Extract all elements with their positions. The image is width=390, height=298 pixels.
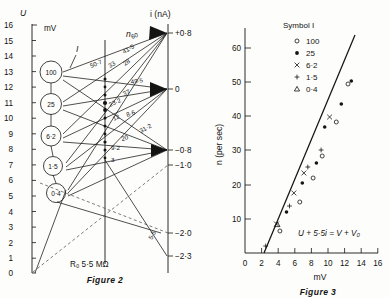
figure3-y-ticks: 60 50 40 30 20 10 <box>232 44 251 224</box>
figure2-caption: Figure 2 <box>87 275 124 285</box>
figure3-point-filled-circle <box>323 125 327 129</box>
figure2-y-tick-label: 6 <box>8 176 13 185</box>
figure3-caption: Figure 3 <box>300 287 337 297</box>
figure3-point-open-circle <box>334 120 338 124</box>
figure3-x-axis-label: mV <box>314 272 327 282</box>
figure3-y-axis-label: n (per sec) <box>214 124 224 165</box>
figure3-x-tick-label: 4 <box>276 259 281 268</box>
figure3-x-tick-label: 2 <box>259 259 264 268</box>
figure3-legend-entry: 6·2 <box>306 61 318 70</box>
figure3-y-tick-label: 10 <box>232 215 242 224</box>
figure3-point-cross <box>292 191 297 196</box>
figure2-y-tick-label: 12 <box>4 83 14 92</box>
figure3-point-plus <box>305 165 310 170</box>
figure-plate-svg: U mV 16 15 14 13 12 11 10 9 8 7 <box>0 0 390 298</box>
figure2-line-label: 37 <box>122 87 132 96</box>
figure3-legend-entry: 1·5 <box>306 73 318 82</box>
figure2-y-tick-label: 3 <box>8 223 13 232</box>
figure2-right-tick-label: −2·3 <box>175 252 192 261</box>
figure2-load-lines <box>35 160 167 273</box>
figure2-y-tick-label: 9 <box>8 130 13 139</box>
figure2-y-tick-label: 14 <box>4 52 14 61</box>
figure2-y-tick-label: 1 <box>8 254 13 263</box>
figure2-y-unit: mV <box>44 24 57 33</box>
figure3-x-tick-label: 8 <box>309 259 314 268</box>
figure3-legend: Symbol I 100 25 6·2 1·5 0·4 <box>283 21 320 94</box>
figure2-right-tick-label: +0·8 <box>175 29 192 38</box>
figure2-right-tick-label: 0 <box>175 85 180 94</box>
figure3-x-tick-label: 10 <box>323 259 333 268</box>
figure3-equation: U + 5·5i = V + V₀ <box>298 229 360 238</box>
figure3-point-cross <box>302 171 307 176</box>
figure3-x-tick-label: 0 <box>243 259 248 268</box>
figure2-line-label: 9·2 <box>111 144 121 151</box>
figure3-point-filled-circle <box>285 210 289 214</box>
figure3-point-open-circle <box>346 82 350 86</box>
figure3-point-filled-circle <box>301 181 305 185</box>
figure3-point-filled-circle <box>315 161 319 165</box>
figure2-current-circle-label: 25 <box>47 101 55 108</box>
figure-plate: U mV 16 15 14 13 12 11 10 9 8 7 <box>0 0 390 298</box>
figure2-y-tick-label: 13 <box>4 68 14 77</box>
figure2-line-label: 41·5 <box>121 42 136 55</box>
figure2-right-tick-label: −0·8 <box>175 146 192 155</box>
figure2-current-circle-label: 0·4 <box>51 190 61 197</box>
figure2-y-tick-label: 7 <box>8 161 13 170</box>
figure2-current-symbol: I <box>76 44 79 54</box>
figure3-x-tick-label: 6 <box>293 259 298 268</box>
figure3-point-plus <box>319 148 324 153</box>
figure2-current-circle-label: 1·5 <box>48 163 58 170</box>
figure2-line-label: 28 <box>122 57 132 67</box>
figure2-current-circles: 100 25 6·2 1·5 0·4 <box>40 61 66 203</box>
figure3-point-open-circle <box>278 229 282 233</box>
figure3-y-tick-label: 40 <box>232 112 242 121</box>
figure2-right-ticks: +0·8 0 −0·8 −1·0 −2·0 −2·3 <box>168 29 192 261</box>
figure3-point-cross <box>327 115 332 120</box>
figure3-point-filled-circle <box>340 102 344 106</box>
figure-3: 60 50 40 30 20 10 n (per sec) 0 2 4 6 8 <box>214 21 383 297</box>
figure3-legend-title: Symbol I <box>283 21 314 30</box>
figure2-line-label: 49·5 <box>130 76 144 85</box>
figure2-y-tick-label: 4 <box>8 208 13 217</box>
figure2-y-tick-label: 0 <box>8 269 13 278</box>
figure2-line-label: 31·2 <box>138 122 153 134</box>
figure3-x-tick-label: 12 <box>340 259 350 268</box>
figure2-right-tick-label: −2·0 <box>175 229 192 238</box>
figure2-line-label: 8·6 <box>125 108 136 118</box>
figure2-line-label: 60 <box>130 31 139 40</box>
figure2-y-tick-label: 11 <box>5 99 14 108</box>
figure3-legend-entry: 100 <box>306 37 320 46</box>
figure2-line-label: 3 <box>111 156 115 163</box>
figure3-y-tick-label: 60 <box>232 44 242 53</box>
figure3-x-tick-label: 16 <box>373 259 383 268</box>
figure2-y-tick-label: 15 <box>4 37 14 46</box>
figure3-x-tick-label: 14 <box>357 259 367 268</box>
figure2-y-tick-label: 10 <box>4 114 14 123</box>
figure3-point-open-circle <box>298 200 302 204</box>
figure3-legend-entry: 0·4 <box>306 85 318 94</box>
figure2-right-axis-label: i (nA) <box>150 9 171 19</box>
figure2-current-circle-label: 100 <box>45 69 56 76</box>
figure2-ray-bundle-top <box>63 33 167 190</box>
figure2-current-circle-label: 6·2 <box>46 133 56 140</box>
figure2-y-tick-label: 8 <box>8 145 13 154</box>
figure3-legend-entry: 25 <box>306 49 315 58</box>
figure3-x-ticks: 0 2 4 6 8 10 12 14 16 <box>243 248 383 268</box>
figure2-resistance-note: R₀ 5·5 MΩ <box>70 260 109 269</box>
figure2-right-tick-label: −1·0 <box>175 161 192 170</box>
figure2-y-tick-label: 2 <box>8 239 13 248</box>
figure3-point-filled-circle <box>350 79 354 83</box>
figure3-y-tick-label: 50 <box>232 78 242 87</box>
figure2-current-symbol-leader <box>70 55 76 68</box>
figure3-point-open-circle <box>311 176 315 180</box>
figure-2: U mV 16 15 14 13 12 11 10 9 8 7 <box>4 8 192 285</box>
figure2-y-tick-label: 16 <box>4 21 14 30</box>
figure2-line-label: 50·7 <box>89 58 104 69</box>
figure3-y-tick-label: 30 <box>232 146 242 155</box>
figure3-point-plus <box>287 204 292 209</box>
figure3-y-tick-label: 20 <box>232 181 242 190</box>
figure2-line-label: 20 <box>120 133 129 142</box>
figure2-y-tick-label: 5 <box>8 192 13 201</box>
figure2-y-symbol: U <box>20 8 27 18</box>
figure3-point-open-circle <box>320 154 324 158</box>
